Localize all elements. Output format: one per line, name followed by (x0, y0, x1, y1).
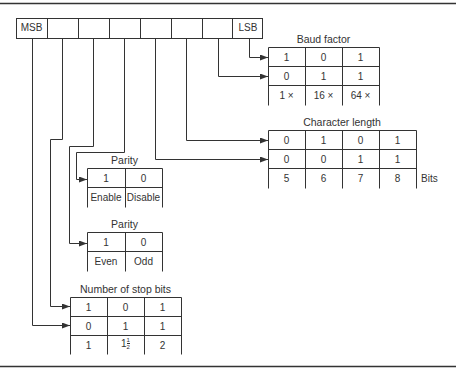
char-cell: 1 (379, 154, 416, 165)
baud-cell: 1 (305, 71, 342, 82)
stop-cell: 1 (144, 321, 181, 332)
parity-enable-label: Disable (125, 192, 162, 203)
baud-cell: 0 (268, 71, 305, 82)
stop-cell: 0 (107, 302, 144, 313)
stop-label: 2 (144, 340, 181, 351)
char-cell: 0 (268, 154, 305, 165)
register-box (17, 19, 263, 39)
stop-cell: 0 (70, 321, 107, 332)
baud-cell: 1 (268, 52, 305, 63)
char-cell: 0 (268, 135, 305, 146)
char-label: 6 (305, 173, 342, 184)
stop-cell: 1 (144, 302, 181, 313)
diagram-lines (0, 0, 456, 373)
stop-label-one-and-half: 112 (107, 337, 144, 350)
char-label: 8 (379, 173, 416, 184)
char-cell: 0 (342, 135, 379, 146)
parity-type-label: Odd (125, 256, 162, 267)
parity-type-cell: 1 (87, 237, 125, 248)
lsb-label: LSB (233, 22, 263, 33)
stop-cell: 1 (70, 302, 107, 313)
char-label: 5 (268, 173, 305, 184)
baud-label: 64 × (342, 90, 379, 101)
char-cell: 1 (342, 154, 379, 165)
parity-enable-cell: 0 (125, 173, 162, 184)
baud-cell: 1 (342, 52, 379, 63)
parity-enable-label: Enable (87, 192, 125, 203)
parity-type-title: Parity (87, 218, 162, 230)
parity-type-cell: 0 (125, 237, 162, 248)
msb-label: MSB (16, 22, 47, 33)
fraction: 12 (127, 337, 130, 350)
bits-unit-label: Bits (421, 173, 438, 184)
parity-enable-title: Parity (87, 154, 162, 166)
parity-enable-cell: 1 (87, 173, 125, 184)
stop-label: 1 (70, 340, 107, 351)
baud-label: 1 × (268, 90, 305, 101)
character-length-title: Character length (268, 116, 416, 128)
baud-cell: 0 (305, 52, 342, 63)
stop-cell: 1 (107, 321, 144, 332)
baud-factor-title: Baud factor (268, 33, 379, 45)
baud-cell: 1 (342, 71, 379, 82)
baud-label: 16 × (305, 90, 342, 101)
char-label: 7 (342, 173, 379, 184)
stop-bits-title: Number of stop bits (70, 283, 181, 295)
char-cell: 0 (305, 154, 342, 165)
parity-type-label: Even (87, 256, 125, 267)
char-cell: 1 (305, 135, 342, 146)
char-cell: 1 (379, 135, 416, 146)
